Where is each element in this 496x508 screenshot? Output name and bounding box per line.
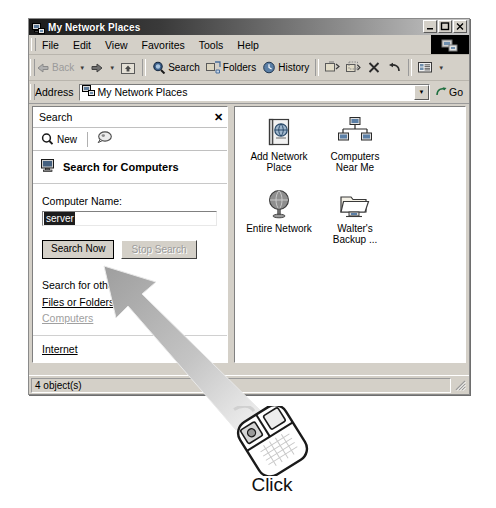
go-label: Go [449,86,463,98]
list-item[interactable]: Entire Network [241,187,317,245]
folders-icon [206,61,221,74]
status-text: 4 object(s) [35,380,82,391]
delete-x-icon [367,61,381,74]
toolbar-separator-2 [315,59,319,76]
new-search-button[interactable]: New [37,132,81,147]
stop-search-button: Stop Search [121,240,196,259]
history-label: History [278,62,309,73]
folders-button[interactable]: Folders [203,59,259,76]
back-arrow-icon [36,62,50,74]
search-button[interactable]: Search [149,59,203,76]
list-item[interactable]: Add Network Place [241,115,317,173]
search-label: Search [168,62,200,73]
click-label: Click [212,474,332,496]
computer-name-value: server [44,212,75,225]
menu-tools[interactable]: Tools [192,38,231,52]
computer-name-input[interactable]: server [42,211,217,226]
go-arrow-icon [435,86,447,98]
toolbar-separator [142,59,146,76]
link-computers: Computers [42,312,227,324]
search-now-button[interactable]: Search Now [42,240,114,259]
go-button[interactable]: Go [432,86,469,98]
computer-name-label: Computer Name: [42,195,217,207]
undo-button[interactable] [384,59,405,76]
views-button[interactable]: ▼ [415,59,449,76]
address-label: Address [35,86,74,98]
copy-to-button[interactable] [343,59,364,76]
back-dropdown-icon[interactable]: ▼ [79,65,85,71]
views-icon [418,61,434,74]
search-pane-toolbar: New [33,128,227,151]
move-to-folder-icon [325,61,340,74]
computer-name-form: Computer Name: server [33,184,227,226]
search-pane-close-icon[interactable]: ✕ [214,111,223,124]
list-item[interactable]: Walter's Backup ... [317,187,393,245]
search-action-buttons: Search Now Stop Search [33,226,227,259]
search-internet-section: Internet [33,336,227,359]
explorer-window: My Network Places File Edit View Favorit… [28,18,470,395]
window-title: My Network Places [48,22,140,33]
add-network-place-icon [263,115,295,148]
search-toolbar-separator [87,132,91,147]
address-bar: Address My Network Places ▼ Go [29,81,469,104]
resize-grip[interactable] [453,378,467,392]
minimize-button[interactable] [423,20,437,33]
network-places-icon [32,21,45,34]
close-button[interactable] [453,20,467,33]
search-for-computers-heading: Search for Computers [33,151,227,184]
link-files-or-folders[interactable]: Files or Folders [42,296,227,308]
computer-mouse-icon [212,406,332,476]
new-search-magnifier-icon [41,133,54,146]
up-folder-icon [120,61,136,75]
toolbar-separator-3 [408,59,412,76]
click-callout: Click [212,406,332,502]
icon-grid: Add Network Place [241,115,465,259]
search-assistant-icon[interactable] [97,130,113,148]
move-to-button[interactable] [322,59,343,76]
copy-to-folder-icon [346,61,361,74]
menu-edit[interactable]: Edit [66,38,98,52]
status-cell: 4 object(s) [31,378,451,393]
history-clock-icon [262,61,276,74]
list-item[interactable]: Computers Near Me [317,115,393,173]
search-other-title: Search for other items: [42,279,227,291]
navigation-toolbar: Back ▼ ▼ Search [29,55,469,81]
forward-arrow-icon [90,62,104,74]
search-heading-label: Search for Computers [63,161,179,173]
undo-arrow-icon [387,61,402,74]
link-internet[interactable]: Internet [42,343,227,355]
window-titlebar[interactable]: My Network Places [29,19,469,35]
search-magnifier-icon [152,61,166,74]
search-pane-header: Search ✕ [33,107,227,128]
history-button[interactable]: History [259,59,312,76]
list-item-label: Computers Near Me [331,151,380,173]
search-pane-title: Search [39,111,72,123]
computer-monitor-icon [41,158,57,176]
delete-button[interactable] [364,59,384,76]
menu-file[interactable]: File [35,38,66,52]
forward-button[interactable] [87,60,107,76]
up-button[interactable] [117,59,139,77]
back-button[interactable]: Back [33,60,77,76]
entire-network-globe-icon [263,187,295,220]
new-search-label: New [57,134,77,145]
list-item-label: Add Network Place [250,151,307,173]
menu-favorites[interactable]: Favorites [135,38,192,52]
address-value: My Network Places [98,86,188,98]
menu-view[interactable]: View [98,38,135,52]
status-bar: 4 object(s) [29,375,469,394]
views-dropdown-icon[interactable]: ▼ [438,65,444,71]
list-item-label: Entire Network [246,223,312,234]
search-other-items: Search for other items: Files or Folders… [33,259,227,328]
menu-help[interactable]: Help [230,38,266,52]
maximize-button[interactable] [438,20,452,33]
shared-folder-icon [338,187,372,220]
forward-dropdown-icon[interactable]: ▼ [109,65,115,71]
window-controls [423,20,467,33]
menu-bar: File Edit View Favorites Tools Help [29,35,469,55]
address-dropdown-icon[interactable]: ▼ [414,85,429,100]
search-pane: Search ✕ New [32,106,228,363]
address-folder-icon [82,83,95,101]
file-list-pane[interactable]: Add Network Place [234,106,466,363]
address-combobox[interactable]: My Network Places ▼ [79,84,430,101]
